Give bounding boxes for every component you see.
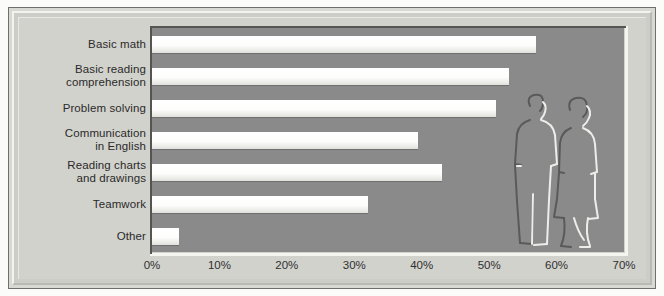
x-axis-tick-label: 50%	[478, 257, 501, 273]
category-label-column: Basic mathBasic reading comprehensionPro…	[20, 28, 146, 252]
x-axis-tick-label: 0%	[144, 257, 161, 273]
x-axis-tick-label: 30%	[343, 257, 366, 273]
x-axis-tick-label: 60%	[545, 257, 568, 273]
category-label: Other	[20, 230, 146, 243]
figure-root: Basic mathBasic reading comprehensionPro…	[0, 0, 664, 296]
bar	[152, 164, 442, 181]
bar	[152, 36, 536, 53]
bar	[152, 228, 179, 245]
x-axis: 0%10%20%30%40%50%60%70%	[152, 257, 624, 279]
category-label: Basic reading comprehension	[20, 63, 146, 89]
bar	[152, 100, 496, 117]
bar	[152, 132, 418, 149]
plot-area	[152, 28, 624, 252]
category-label: Communication in English	[20, 127, 146, 153]
bar	[152, 68, 509, 85]
x-axis-tick-label: 10%	[208, 257, 231, 273]
category-label: Basic math	[20, 38, 146, 51]
category-label: Problem solving	[20, 102, 146, 115]
category-label: Teamwork	[20, 198, 146, 211]
x-axis-tick-label: 70%	[612, 257, 635, 273]
bar	[152, 196, 368, 213]
category-label: Reading charts and drawings	[20, 159, 146, 185]
people-illustration-icon	[504, 90, 612, 250]
x-axis-tick-label: 40%	[410, 257, 433, 273]
x-axis-tick-label: 20%	[275, 257, 298, 273]
